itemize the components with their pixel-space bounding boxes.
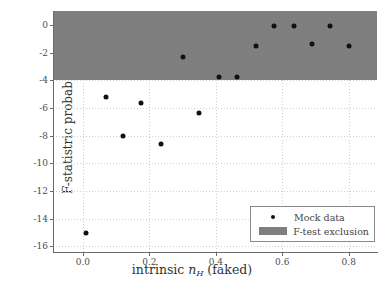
data-point — [197, 111, 202, 116]
x-tick-mark — [282, 253, 283, 256]
gridline-horizontal — [53, 136, 377, 137]
data-point — [271, 23, 276, 28]
data-point — [217, 74, 222, 79]
x-tick-mark — [349, 253, 350, 256]
y-tick-mark — [50, 80, 53, 81]
y-axis-spine — [53, 11, 54, 253]
data-point — [346, 44, 351, 49]
x-axis-label: intrinsic nH (faked) — [0, 262, 384, 278]
y-tick-mark — [50, 108, 53, 109]
y-tick-label: -12 — [34, 186, 49, 196]
gridline-horizontal — [53, 191, 377, 192]
y-tick-label: -8 — [39, 131, 48, 141]
data-point — [310, 42, 315, 47]
y-tick-mark — [50, 25, 53, 26]
y-tick-label: -2 — [39, 48, 48, 58]
x-tick-mark — [149, 253, 150, 256]
data-point — [180, 55, 185, 60]
y-tick-label: 0 — [42, 20, 48, 30]
y-tick-label: -4 — [39, 75, 48, 85]
legend-gray-patch-icon — [256, 227, 289, 235]
x-tick-mark — [83, 253, 84, 256]
data-point — [159, 141, 164, 146]
f-test-exclusion-band — [53, 11, 377, 80]
x-axis-label-suffix: (faked) — [203, 262, 252, 277]
x-tick-mark — [216, 253, 217, 256]
y-tick-mark — [50, 246, 53, 247]
data-point — [120, 133, 125, 138]
gridline-horizontal — [53, 246, 377, 247]
data-point — [253, 43, 258, 48]
legend-item-f-test-exclusion: F-test exclusion — [256, 224, 369, 238]
gridline-horizontal — [53, 80, 377, 81]
gridline-horizontal — [53, 108, 377, 109]
data-point — [291, 23, 296, 28]
data-point — [235, 75, 240, 80]
legend-label-f-test-exclusion: F-test exclusion — [289, 226, 369, 237]
y-tick-label: -14 — [34, 214, 49, 224]
y-axis-label-container: F-statistric probability — [2, 0, 20, 252]
y-tick-mark — [50, 219, 53, 220]
legend-item-mock-data: Mock data — [256, 210, 369, 224]
figure: F-statistric probability 0-2-4-6-8-10-12… — [0, 0, 384, 285]
legend-label-mock-data: Mock data — [290, 212, 345, 223]
x-axis-label-prefix: intrinsic — [132, 262, 188, 277]
y-tick-label: -6 — [39, 103, 48, 113]
legend-dot-marker-icon — [256, 215, 290, 219]
data-point — [139, 101, 144, 106]
y-tick-mark — [50, 136, 53, 137]
y-tick-mark — [50, 53, 53, 54]
gridline-horizontal — [53, 163, 377, 164]
y-tick-mark — [50, 191, 53, 192]
data-point — [84, 230, 89, 235]
data-point — [104, 94, 109, 99]
y-tick-mark — [50, 163, 53, 164]
y-tick-label: -10 — [34, 158, 49, 168]
legend: Mock data F-test exclusion — [250, 206, 375, 242]
data-point — [328, 23, 333, 28]
y-tick-label: -16 — [34, 241, 49, 251]
